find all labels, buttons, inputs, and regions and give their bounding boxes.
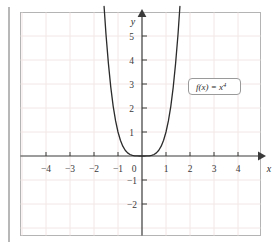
y-tick-label: 2 <box>129 104 134 114</box>
x-tick-label: −1 <box>113 164 123 174</box>
function-graph-figure: −4 −3 −2 −1 0 1 2 3 4 5 4 3 2 1 −1 −2 y … <box>0 0 275 249</box>
function-label: f(x) = x4 <box>189 79 241 95</box>
x-tick-label: 3 <box>212 164 217 174</box>
y-tick-label: −1 <box>127 176 137 186</box>
graph-canvas: −4 −3 −2 −1 0 1 2 3 4 5 4 3 2 1 −1 −2 y … <box>0 0 275 249</box>
x-axis-name: x <box>266 163 272 174</box>
x-tick-label: −3 <box>65 164 75 174</box>
function-label-expression: f(x) = x <box>196 82 223 92</box>
y-axis-name: y <box>130 16 136 27</box>
y-tick-label: 5 <box>129 32 134 42</box>
y-tick-label: −2 <box>127 200 137 210</box>
x-tick-label: −4 <box>41 164 51 174</box>
y-tick-label: 1 <box>129 128 134 138</box>
y-tick-label: 4 <box>129 56 134 66</box>
x-tick-label: 4 <box>236 164 241 174</box>
x-tick-label: −2 <box>89 164 99 174</box>
origin-label: 0 <box>132 164 137 174</box>
plot-frame <box>21 13 261 236</box>
function-label-text: f(x) = x4 <box>196 81 227 93</box>
x-tick-label: 1 <box>164 164 169 174</box>
y-tick-label: 3 <box>129 80 134 90</box>
x-tick-label: 2 <box>188 164 193 174</box>
